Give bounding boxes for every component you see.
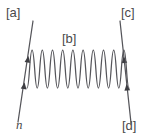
label-b: [b] [62, 32, 76, 45]
label-d: [d] [122, 119, 136, 132]
feynman-diagram-figure: [a] [c] [b] [d] n [0, 0, 152, 140]
right-fermion-arrow-lower [124, 84, 130, 91]
wavy-boson-propagator [27, 50, 129, 88]
left-fermion-line [18, 21, 33, 122]
label-c: [c] [121, 6, 135, 19]
label-a: [a] [6, 6, 20, 19]
label-n: n [16, 118, 23, 131]
